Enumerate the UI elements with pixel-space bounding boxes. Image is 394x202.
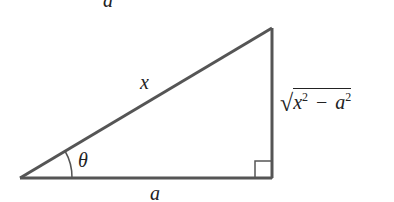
var-x: x [293, 91, 302, 113]
angle-arc [65, 151, 72, 178]
base-label: a [150, 183, 160, 202]
vertical-side-label: √x2−a2 [280, 88, 351, 115]
var-a: a [335, 91, 345, 113]
exp-2: 2 [345, 90, 351, 104]
hypotenuse [20, 28, 272, 178]
right-angle-marker [255, 161, 272, 178]
radical-sign: √ [280, 91, 293, 115]
top-label: a [103, 0, 113, 10]
angle-label: θ [78, 150, 88, 170]
minus-operator: − [316, 91, 327, 113]
exp-1: 2 [302, 90, 308, 104]
hypotenuse-label: x [140, 72, 149, 92]
